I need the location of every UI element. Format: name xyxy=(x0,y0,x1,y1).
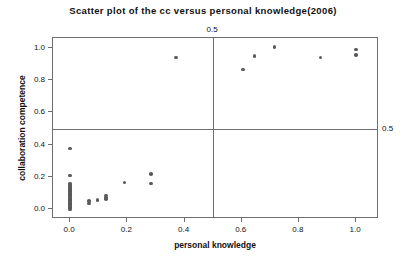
data-point xyxy=(149,182,153,186)
chart-title: Scatter plot of the cc versus personal k… xyxy=(0,5,406,16)
reference-line-label-right: 0.5 xyxy=(382,123,393,132)
y-axis-tick-label: 0.4 xyxy=(24,139,45,148)
data-point xyxy=(123,181,127,185)
data-point xyxy=(319,56,323,60)
x-axis-tick xyxy=(184,218,185,222)
x-axis-tick xyxy=(355,218,356,222)
data-point xyxy=(149,172,153,176)
data-point xyxy=(104,197,108,201)
x-axis-tick-label: 0.2 xyxy=(121,225,132,234)
y-axis-tick xyxy=(48,144,52,145)
y-axis-tick xyxy=(48,208,52,209)
data-point xyxy=(68,147,72,151)
data-point xyxy=(354,53,358,57)
reference-line-horizontal xyxy=(53,129,377,130)
data-point xyxy=(68,208,72,212)
y-axis-tick xyxy=(48,176,52,177)
data-point xyxy=(174,56,178,60)
x-axis-tick-label: 0.6 xyxy=(235,225,246,234)
data-point xyxy=(241,68,245,72)
data-point xyxy=(273,45,277,49)
data-point xyxy=(354,48,358,52)
reference-line-vertical xyxy=(213,38,214,217)
scatter-plot-figure: Scatter plot of the cc versus personal k… xyxy=(0,0,406,260)
reference-line-label-top: 0.5 xyxy=(207,25,218,34)
y-axis-tick-label: 0.8 xyxy=(24,75,45,84)
x-axis-tick xyxy=(298,218,299,222)
y-axis-tick xyxy=(48,79,52,80)
y-axis-label: collaboration competence xyxy=(17,75,27,180)
x-axis-label: personal knowledge xyxy=(52,240,378,250)
data-point xyxy=(96,198,100,202)
x-axis-tick-label: 0.0 xyxy=(64,225,75,234)
y-axis-tick-label: 0.0 xyxy=(24,204,45,213)
y-axis-tick xyxy=(48,47,52,48)
data-point xyxy=(68,174,72,178)
data-point xyxy=(253,54,257,58)
data-point xyxy=(87,202,91,206)
x-axis-tick xyxy=(69,218,70,222)
plot-area xyxy=(52,37,378,218)
y-axis-tick-label: 0.2 xyxy=(24,171,45,180)
y-axis-tick xyxy=(48,111,52,112)
y-axis-tick-label: 0.6 xyxy=(24,107,45,116)
x-axis-tick-label: 0.4 xyxy=(178,225,189,234)
y-axis-tick-label: 1.0 xyxy=(24,42,45,51)
x-axis-tick-label: 0.8 xyxy=(292,225,303,234)
x-axis-tick xyxy=(241,218,242,222)
x-axis-tick xyxy=(126,218,127,222)
x-axis-tick-label: 1.0 xyxy=(350,225,361,234)
